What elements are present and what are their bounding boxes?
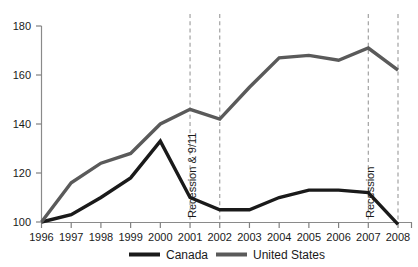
legend-label-canada: Canada xyxy=(166,248,208,262)
chart-container: 100120140160180 Recession & 9/11Recessio… xyxy=(0,0,418,267)
x-tick-label-2003: 2003 xyxy=(237,231,261,243)
line-chart: 100120140160180 Recession & 9/11Recessio… xyxy=(0,0,418,267)
y-tick-label-140: 140 xyxy=(13,118,31,130)
x-tick-label-2008: 2008 xyxy=(386,231,410,243)
x-tick-label-2000: 2000 xyxy=(148,231,172,243)
x-tick-label-2007: 2007 xyxy=(356,231,380,243)
x-tick-label-2002: 2002 xyxy=(208,231,232,243)
x-tick-label-1996: 1996 xyxy=(29,231,53,243)
x-tick-label-2001: 2001 xyxy=(178,231,202,243)
y-tick-label-100: 100 xyxy=(13,216,31,228)
x-tick-label-2005: 2005 xyxy=(297,231,321,243)
y-tick-label-160: 160 xyxy=(13,69,31,81)
x-tick-label-2006: 2006 xyxy=(326,231,350,243)
x-tick-label-1998: 1998 xyxy=(89,231,113,243)
annotation-label-recession-911: Recession & 9/11 xyxy=(186,133,198,218)
x-tick-label-1999: 1999 xyxy=(118,231,142,243)
x-tick-label-2004: 2004 xyxy=(267,231,291,243)
legend-label-united-states: United States xyxy=(253,248,325,262)
chart-background xyxy=(0,0,418,267)
y-tick-label-180: 180 xyxy=(13,20,31,32)
y-tick-label-120: 120 xyxy=(13,167,31,179)
x-tick-label-1997: 1997 xyxy=(59,231,83,243)
